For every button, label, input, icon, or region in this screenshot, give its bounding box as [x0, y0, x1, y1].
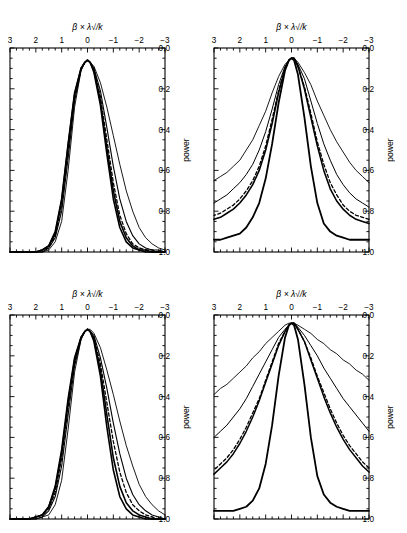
y-tick-label: 0.6 — [363, 433, 375, 442]
x-tick-label: 0 — [86, 303, 91, 312]
y-tick-label: 0.0 — [363, 45, 375, 54]
series-line-curve-5 — [11, 61, 166, 253]
plot-frame — [214, 315, 369, 519]
y-tick-label: 0.6 — [159, 167, 171, 176]
y-tick-label: 1.0 — [363, 249, 375, 258]
x-tick-label: −2 — [135, 303, 145, 312]
plot-frame — [11, 49, 166, 253]
figure-root: −3−2−101230.00.20.40.60.81.0β × λ√/kpowe… — [0, 0, 407, 533]
x-tick-label: 1 — [263, 303, 268, 312]
x-tick-label: 2 — [238, 303, 243, 312]
x-axis-label: β × λ√/k — [275, 23, 307, 33]
series-line-curve-4 — [214, 59, 369, 208]
y-tick-label: 0.0 — [159, 45, 171, 54]
y-tick-label: 0.2 — [363, 352, 375, 361]
series-line-curve-4 — [214, 323, 369, 437]
x-tick-label: 3 — [8, 303, 13, 312]
x-tick-label: −1 — [109, 303, 119, 312]
y-tick-label: 0.2 — [159, 352, 171, 361]
x-tick-label: 0 — [86, 37, 91, 46]
series-line-curve-1 — [214, 323, 369, 511]
x-tick-label: 1 — [263, 37, 268, 46]
x-tick-label: 2 — [238, 37, 243, 46]
panel-d-svg: −3−2−101230.00.20.40.60.81.0β × λ√/kpowe… — [204, 267, 407, 533]
y-tick-label: 0.8 — [159, 474, 171, 483]
series-line-curve-4 — [11, 329, 166, 519]
series-line-curve-2 — [214, 59, 369, 224]
series-line-curve-5 — [214, 59, 369, 183]
x-tick-label: 1 — [60, 37, 65, 46]
x-axis-label: β × λ√/k — [72, 289, 104, 299]
x-tick-label: 3 — [212, 37, 217, 46]
y-tick-label: 0.4 — [159, 126, 171, 135]
x-tick-label: −2 — [338, 37, 348, 46]
panel-c-svg: −3−2−101230.00.20.40.60.81.0β × λ√/kpowe… — [204, 0, 407, 267]
panel-b: −3−2−101230.00.20.40.60.81.0β × λ√/kpowe… — [0, 267, 204, 533]
y-tick-label: 0.8 — [363, 208, 375, 217]
x-tick-label: 0 — [289, 37, 294, 46]
y-axis-label: power — [385, 405, 395, 429]
y-tick-label: 0.8 — [363, 474, 375, 483]
series-line-curve-3 — [214, 59, 369, 220]
series-line-curve-4 — [11, 61, 166, 253]
y-axis-label: power — [182, 139, 192, 163]
y-axis-label: power — [182, 405, 192, 429]
y-tick-label: 0.6 — [363, 167, 375, 176]
panel-c: −3−2−101230.00.20.40.60.81.0β × λ√/kpowe… — [204, 0, 407, 267]
panel-b-svg: −3−2−101230.00.20.40.60.81.0β × λ√/kpowe… — [0, 267, 204, 533]
plot-frame — [214, 49, 369, 253]
y-tick-label: 0.4 — [363, 126, 375, 135]
y-tick-label: 0.6 — [159, 433, 171, 442]
panel-a-svg: −3−2−101230.00.20.40.60.81.0β × λ√/kpowe… — [0, 0, 204, 267]
x-tick-label: 2 — [34, 303, 39, 312]
series-line-curve-5 — [214, 323, 369, 394]
series-line-curve-1 — [11, 61, 166, 253]
x-axis-label: β × λ√/k — [72, 23, 104, 33]
series-line-curve-5 — [11, 329, 166, 519]
y-tick-label: 0.0 — [363, 311, 375, 320]
figure-canvas: −3−2−101230.00.20.40.60.81.0β × λ√/kpowe… — [0, 0, 407, 533]
panel-a: −3−2−101230.00.20.40.60.81.0β × λ√/kpowe… — [0, 0, 204, 267]
panel-d: −3−2−101230.00.20.40.60.81.0β × λ√/kpowe… — [204, 267, 407, 533]
series-line-curve-3 — [11, 61, 166, 253]
series-line-curve-2 — [214, 323, 369, 474]
series-line-curve-1 — [11, 329, 166, 519]
x-axis-label: β × λ√/k — [275, 289, 307, 299]
series-line-curve-2 — [11, 329, 166, 519]
x-tick-label: 2 — [34, 37, 39, 46]
y-tick-label: 0.8 — [159, 208, 171, 217]
x-tick-label: −2 — [338, 303, 348, 312]
x-tick-label: −2 — [135, 37, 145, 46]
series-line-curve-2 — [11, 61, 166, 253]
y-tick-label: 0.2 — [159, 85, 171, 94]
x-tick-label: −1 — [109, 37, 119, 46]
y-tick-label: 1.0 — [363, 515, 375, 524]
x-tick-label: −1 — [313, 303, 323, 312]
x-tick-label: 3 — [212, 303, 217, 312]
x-tick-label: 1 — [60, 303, 65, 312]
y-tick-label: 0.2 — [363, 85, 375, 94]
y-tick-label: 0.0 — [159, 311, 171, 320]
x-tick-label: 0 — [289, 303, 294, 312]
x-tick-label: −1 — [313, 37, 323, 46]
x-tick-label: 3 — [8, 37, 13, 46]
y-tick-label: 0.4 — [363, 393, 375, 402]
y-tick-label: 0.4 — [159, 393, 171, 402]
series-line-curve-3 — [11, 329, 166, 519]
y-axis-label: power — [385, 139, 395, 163]
